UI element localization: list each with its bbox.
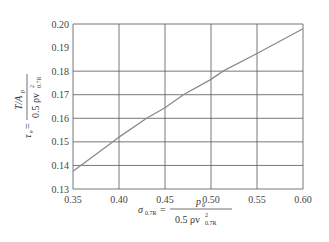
x-tick-label: 0.55 [248,194,266,205]
svg-text:0.7R: 0.7R [205,220,217,226]
svg-text:=: = [22,123,33,129]
y-tick-label: 0.17 [52,89,70,100]
y-tick-label: 0.15 [52,136,70,147]
x-tick-label: 0.40 [110,194,128,205]
svg-text:p: p [195,196,201,207]
x-tick-label: 0.35 [64,194,82,205]
y-tick-label: 0.20 [52,19,70,30]
svg-text:0: 0 [202,202,205,208]
y-tick-label: 0.19 [52,42,70,53]
x-tick-label: 0.60 [294,194,312,205]
svg-text:p: p [19,90,25,93]
grid [73,24,303,189]
y-tick-label: 0.16 [52,113,70,124]
svg-text:τ: τ [22,134,33,138]
svg-text:2: 2 [205,212,208,218]
svg-text:2: 2 [29,85,35,88]
y-axis-label: τ e = T/A p 0.5 ρv 2 0.7R [13,74,42,138]
svg-text:=: = [160,204,166,215]
svg-text:0.7R: 0.7R [36,76,42,88]
chart: 0.350.400.450.500.550.600.130.140.150.16… [0,0,329,242]
svg-text:T/A: T/A [13,95,24,110]
svg-text:e: e [28,130,34,133]
y-tick-label: 0.13 [52,184,70,195]
svg-text:σ: σ [138,204,144,215]
svg-text:0.5 ρv: 0.5 ρv [30,93,41,118]
y-tick-label: 0.18 [52,66,70,77]
series-line [73,29,303,172]
tick-labels: 0.350.400.450.500.550.600.130.140.150.16… [52,19,312,206]
y-tick-label: 0.14 [52,160,70,171]
data-series [73,29,303,172]
svg-text:0.5 ρv: 0.5 ρv [175,214,200,225]
svg-text:0.7R: 0.7R [145,210,157,216]
